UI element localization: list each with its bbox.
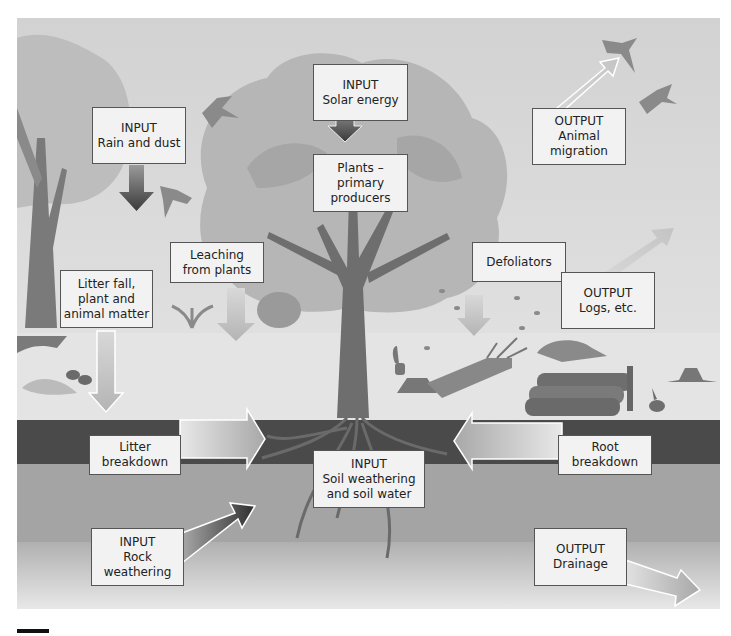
label-line: migration xyxy=(550,144,608,159)
label-line: Leaching xyxy=(190,248,244,263)
plant-icon xyxy=(22,379,77,395)
arrow-drainage xyxy=(617,557,700,606)
fallen-tree-icon xyxy=(427,338,527,398)
label-drainage: OUTPUT Drainage xyxy=(534,528,627,586)
label-line: Root xyxy=(591,440,618,455)
figure-caption-bar xyxy=(17,629,49,633)
log-pile-icon xyxy=(525,366,633,416)
label-line: and soil water xyxy=(327,487,412,502)
label-line: OUTPUT xyxy=(555,114,604,129)
ecosystem-diagram: INPUT Rain and dust INPUT Solar energy P… xyxy=(17,18,720,609)
rabbit-icon xyxy=(649,388,665,412)
label-line: animal matter xyxy=(64,307,149,322)
bird-icon xyxy=(639,84,677,114)
label-line: Soil weathering xyxy=(322,472,415,487)
label-soil-weathering: INPUT Soil weathering and soil water xyxy=(313,450,425,508)
label-defoliators: Defoliators xyxy=(472,242,566,282)
arrow-rock-weathering xyxy=(182,503,255,563)
arrow-root-breakdown-left xyxy=(454,413,562,469)
label-solar-energy: INPUT Solar energy xyxy=(313,64,408,121)
label-line: producers xyxy=(330,191,390,206)
label-animal-migration: OUTPUT Animal migration xyxy=(532,108,626,165)
fox-icon xyxy=(537,340,607,362)
label-line: INPUT xyxy=(343,78,379,93)
stump-icon xyxy=(667,368,717,382)
label-line: breakdown xyxy=(572,455,638,470)
label-line: Plants – xyxy=(337,161,383,176)
label-line: Animal xyxy=(558,129,600,144)
arrow-migration-up xyxy=(557,58,619,111)
label-root-breakdown: Root breakdown xyxy=(558,435,652,475)
label-leaching-from-plants: Leaching from plants xyxy=(170,242,264,283)
label-plants-primary-producers: Plants – primary producers xyxy=(313,154,408,212)
label-line: Litter fall, xyxy=(78,277,136,292)
label-line: Solar energy xyxy=(322,93,398,108)
label-line: Logs, etc. xyxy=(579,301,637,316)
label-logs-output: OUTPUT Logs, etc. xyxy=(561,272,655,329)
rabbit-icon xyxy=(66,370,92,385)
label-line: Rain and dust xyxy=(98,136,181,151)
label-line: INPUT xyxy=(120,535,156,550)
label-litter-breakdown: Litter breakdown xyxy=(89,435,181,475)
label-litter-fall: Litter fall, plant and animal matter xyxy=(60,270,153,328)
shrub-icon xyxy=(257,292,301,328)
label-line: Drainage xyxy=(553,557,608,572)
label-line: Defoliators xyxy=(486,255,551,270)
arrow-rain-dust-down xyxy=(119,165,154,211)
label-line: INPUT xyxy=(121,121,157,136)
label-line: weathering xyxy=(104,565,172,580)
label-line: plant and xyxy=(78,292,135,307)
label-line: Rock xyxy=(123,550,152,565)
fern-icon xyxy=(172,306,213,328)
bird-icon xyxy=(160,186,192,218)
label-line: from plants xyxy=(183,263,252,278)
arrow-defoliators-down xyxy=(457,295,491,336)
arrow-leaching-down xyxy=(217,288,255,341)
label-line: OUTPUT xyxy=(556,542,605,557)
label-rock-weathering: INPUT Rock weathering xyxy=(91,528,184,586)
label-line: INPUT xyxy=(351,457,387,472)
label-line: Litter xyxy=(119,440,151,455)
label-line: primary xyxy=(337,176,384,191)
label-line: OUTPUT xyxy=(584,286,633,301)
arrow-litter-fall-down xyxy=(89,331,123,412)
label-line: breakdown xyxy=(102,455,168,470)
arrow-litter-breakdown-right xyxy=(180,409,265,468)
squirrel-icon xyxy=(393,346,405,375)
label-rain-and-dust: INPUT Rain and dust xyxy=(92,107,186,164)
